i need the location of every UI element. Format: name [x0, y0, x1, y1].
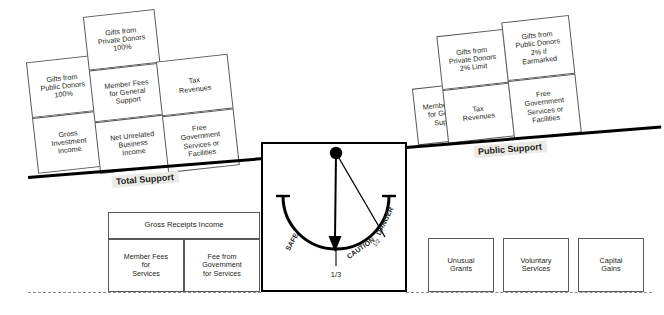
cell-text: Fee fromGovernmentfor Services [200, 253, 244, 277]
cell-free-government-services-2[interactable]: FreeGovernmentServices orFacilities [508, 74, 582, 140]
gauge-label-safe: SAFE [284, 232, 299, 252]
cell-capital-gains[interactable]: CapitalGains [578, 238, 644, 292]
cell-text: Gifts fromPublic Donors2% ifEarmarked [512, 29, 564, 66]
cell-voluntary-services[interactable]: VoluntaryServices [503, 238, 569, 292]
cell-text: Gifts fromPrivate Donors2% Limit [446, 45, 500, 75]
gauge-line-danger [336, 153, 385, 237]
diagram-canvas: Gifts fromPublic Donors100% GrossInvestm… [0, 0, 664, 315]
support-ratio-gauge[interactable]: SAFE CAUTION DANGER 1/3 1/2 [261, 142, 407, 292]
cell-text: TaxRevenues [460, 103, 498, 123]
cell-tax-revenues-2[interactable]: TaxRevenues [442, 83, 515, 144]
gauge-needle [335, 153, 336, 239]
cell-fee-from-government-for-services[interactable]: Fee fromGovernmentfor Services [184, 239, 260, 292]
gauge-pivot-dot [330, 147, 342, 159]
cell-unusual-grants[interactable]: UnusualGrants [428, 238, 494, 292]
cell-member-fees-services[interactable]: Member FeesforServices [108, 239, 184, 292]
cell-text: CapitalGains [597, 257, 624, 274]
cell-gifts-public-donors-earmarked[interactable]: Gifts fromPublic Donors2% ifEarmarked [501, 15, 575, 81]
ground-dashed-line-left [28, 292, 261, 293]
cell-gifts-private-donors-2pct[interactable]: Gifts fromPrivate Donors2% Limit [436, 29, 509, 90]
cell-text: UnusualGrants [445, 257, 476, 274]
col-public-donors-earmarked: Gifts fromPublic Donors2% ifEarmarked Fr… [501, 15, 582, 140]
cell-text: Member FeesforServices [122, 253, 170, 277]
cell-text: Gross Receipts Income [143, 221, 226, 230]
cell-text: VoluntaryServices [519, 257, 554, 274]
gauge-svg: SAFE CAUTION DANGER 1/3 1/2 [263, 144, 409, 294]
cell-gross-receipts-income[interactable]: Gross Receipts Income [108, 212, 260, 239]
ground-dashed-line-right [406, 292, 652, 293]
gauge-label-danger: DANGER [375, 206, 395, 236]
gauge-value-one-third: 1/3 [331, 270, 341, 279]
cell-text: FreeGovernmentServices orFacilities [521, 88, 568, 125]
gross-receipts-group: Gross Receipts Income Member FeesforServ… [108, 212, 260, 292]
